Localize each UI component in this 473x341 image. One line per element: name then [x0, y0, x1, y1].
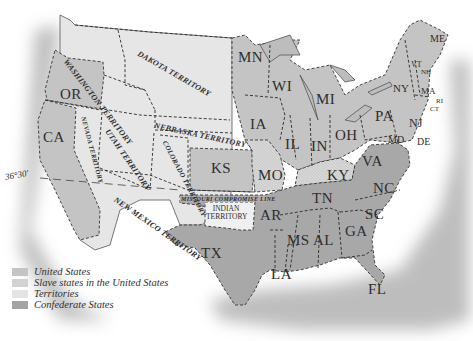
- legend-item-territories: Territories: [12, 288, 168, 299]
- label-ny: NY: [393, 83, 409, 94]
- legend-swatch-confederate: [12, 301, 28, 309]
- label-ms: MS: [287, 233, 310, 248]
- label-sc: SC: [365, 207, 384, 222]
- legend-swatch-union: [12, 268, 28, 276]
- label-ct: CT: [430, 106, 439, 113]
- label-ia: IA: [250, 117, 267, 132]
- label-tx: TX: [201, 246, 222, 261]
- label-pa: PA: [375, 109, 394, 124]
- label-mo: MO: [258, 168, 283, 183]
- label-ri: RI: [436, 98, 443, 105]
- label-ar: AR: [260, 208, 282, 223]
- label-nc: NC: [373, 181, 395, 196]
- label-la: LA: [271, 267, 292, 282]
- label-indian-territory: INDIAN TERRITORY: [206, 205, 246, 220]
- legend-label: Territories: [34, 288, 79, 299]
- label-wi: WI: [272, 79, 292, 94]
- label-il: IL: [285, 137, 300, 152]
- label-nj: NJ: [409, 117, 422, 129]
- map-legend: United States Slave states in the United…: [12, 266, 168, 310]
- label-missouri-compromise-line: MISSOURI COMPROMISE LINE: [181, 196, 276, 202]
- label-al: AL: [313, 233, 334, 248]
- label-mn: MN: [238, 50, 263, 65]
- legend-swatch-territory: [12, 290, 28, 298]
- label-in: IN: [311, 139, 328, 154]
- legend-label: United States: [34, 266, 90, 277]
- label-or: OR: [60, 87, 82, 102]
- label-me: ME: [430, 34, 445, 44]
- label-ma: MA: [421, 87, 436, 96]
- label-ky: KY: [327, 168, 350, 183]
- label-tn: TN: [312, 191, 333, 206]
- legend-label: Confederate States: [34, 299, 114, 310]
- label-md: MD: [388, 135, 404, 145]
- legend-item-united-states: United States: [12, 266, 168, 277]
- label-ks: KS: [211, 161, 231, 176]
- legend-label: Slave states in the United States: [34, 277, 168, 288]
- label-ga: GA: [345, 224, 368, 239]
- legend-item-confederate: Confederate States: [12, 299, 168, 310]
- label-ca: CA: [43, 130, 65, 145]
- legend-swatch-slave-union: [12, 279, 28, 287]
- legend-item-slave-states: Slave states in the United States: [12, 277, 168, 288]
- label-va: VA: [362, 154, 383, 169]
- label-nh: NH: [421, 69, 431, 76]
- label-fl: FL: [368, 282, 387, 297]
- label-oh: OH: [335, 128, 358, 143]
- label-de: DE: [417, 137, 430, 147]
- label-mi: MI: [316, 92, 335, 107]
